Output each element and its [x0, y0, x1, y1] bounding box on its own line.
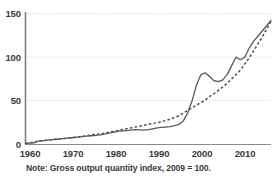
- x-axis-tick-1990: 1990: [144, 148, 174, 159]
- x-axis-tick-1980: 1980: [101, 148, 131, 159]
- chart-container: 150 100 50 0 1960 1970 1980 1990 2000 20…: [0, 0, 278, 179]
- x-axis-tick-1970: 1970: [58, 148, 88, 159]
- y-axis-tick-150: 150: [1, 8, 21, 19]
- x-axis-tick-2010: 2010: [230, 148, 260, 159]
- x-axis-tick-1960: 1960: [15, 148, 45, 159]
- data-series-solid: [26, 20, 272, 143]
- gridlines: [25, 14, 271, 101]
- x-axis-tick-2000: 2000: [187, 148, 217, 159]
- y-axis-tick-100: 100: [1, 52, 21, 63]
- chart-note: Note: Gross output quantity index, 2009 …: [26, 163, 211, 173]
- data-series-dashed: [26, 21, 272, 143]
- y-axis-tick-50: 50: [1, 95, 21, 106]
